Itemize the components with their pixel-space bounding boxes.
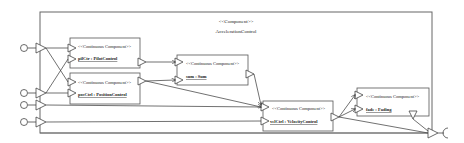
port-triangle [36, 43, 46, 53]
pos-label: posCtrl : PositionControl [78, 92, 127, 97]
sum-label: sum : Sum [186, 74, 207, 79]
pil-label: pilCtr : PilotControl [78, 56, 118, 61]
vel-label: velCtrl : VelocityControl [270, 119, 318, 124]
component-velocity-control[interactable]: <<Continuous Component>> velCtrl : Veloc… [263, 101, 333, 131]
input-port-2[interactable] [21, 90, 28, 97]
fade-label: fade : Fading [366, 107, 392, 112]
input-port-1[interactable] [21, 45, 28, 52]
input-port-3[interactable] [21, 102, 28, 109]
port-triangle [36, 88, 46, 98]
pos-stereotype: <<Continuous Component>> [78, 80, 131, 85]
outer-stereotype: <<Component>> [219, 19, 254, 24]
component-pilot-control[interactable]: <<Continuous Component>> pilCtr : PilotC… [70, 38, 140, 68]
component-fading[interactable]: <<Continuous Component>> fade : Fading [357, 88, 429, 116]
component-position-control[interactable]: <<Continuous Component>> posCtrl : Posit… [70, 73, 140, 104]
input-port-4[interactable] [21, 119, 28, 126]
sum-stereotype: <<Continuous Component>> [186, 61, 239, 66]
port-triangle [36, 100, 46, 110]
output-port-triangle [428, 128, 438, 138]
external-inputs [21, 45, 37, 126]
component-diagram: <<Component>> AccelerationControl <<Cont… [0, 0, 464, 143]
vel-stereotype: <<Continuous Component>> [272, 106, 325, 111]
fade-stereotype: <<Continuous Component>> [366, 94, 419, 99]
component-sum[interactable]: <<Continuous Component>> sum : Sum [177, 55, 248, 85]
port-triangle [36, 117, 46, 127]
pil-stereotype: <<Continuous Component>> [78, 44, 131, 49]
outer-name: AccelerationControl [216, 29, 257, 34]
